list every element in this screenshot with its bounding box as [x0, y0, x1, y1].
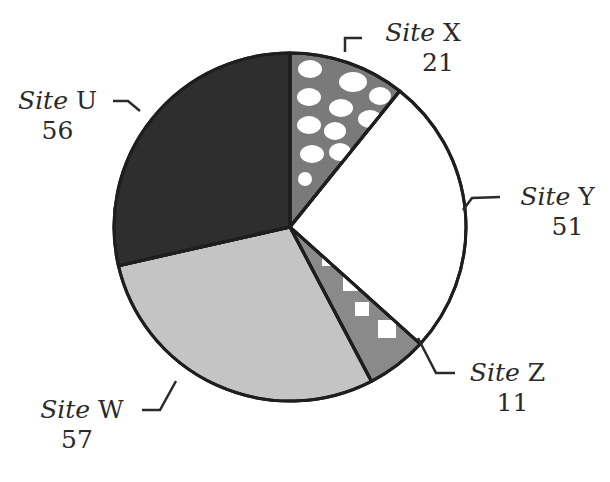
leader-line-site-x: [345, 38, 362, 52]
label-site-u: Site U 56: [5, 86, 110, 146]
label-site-y-name: Site: [520, 182, 570, 211]
label-site-z-value: 11: [455, 388, 560, 418]
label-site-x-value: 21: [368, 48, 478, 78]
label-site-w-name: Site: [40, 395, 90, 424]
label-site-x: Site X 21: [368, 18, 478, 78]
leader-line-site-u: [113, 101, 140, 111]
label-site-u-value: 56: [5, 116, 110, 146]
label-site-u-name: Site: [18, 86, 68, 115]
label-site-x-name: Site: [385, 18, 435, 47]
leader-line-site-w: [142, 381, 176, 410]
leader-line-site-z: [418, 338, 455, 373]
label-site-u-letter: U: [76, 86, 97, 115]
label-site-y-value: 51: [505, 212, 610, 242]
label-site-w-letter: W: [98, 395, 124, 424]
label-site-w-value: 57: [22, 425, 142, 455]
label-site-z-letter: Z: [528, 358, 545, 387]
label-site-y-letter: Y: [578, 182, 595, 211]
label-site-y: Site Y 51: [505, 182, 610, 242]
leader-line-site-y: [463, 197, 500, 210]
label-site-w: Site W 57: [22, 395, 142, 455]
label-site-z: Site Z 11: [455, 358, 560, 418]
label-site-x-letter: X: [443, 18, 461, 47]
label-site-z-name: Site: [470, 358, 520, 387]
